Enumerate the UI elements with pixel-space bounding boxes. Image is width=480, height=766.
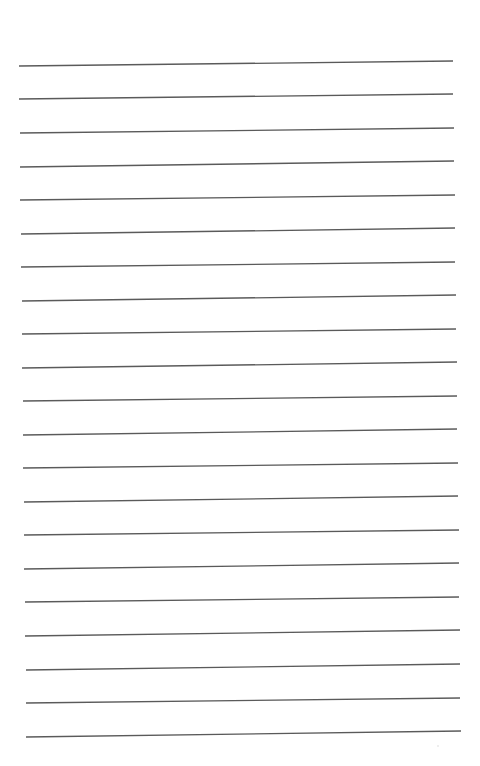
ruled-line-13 bbox=[23, 463, 458, 468]
ruled-line-16 bbox=[24, 563, 459, 569]
ruled-line-11 bbox=[23, 396, 457, 401]
ruled-line-14 bbox=[24, 496, 458, 502]
ruled-line-6 bbox=[21, 228, 455, 234]
ruled-line-19 bbox=[26, 664, 460, 670]
ruled-line-1 bbox=[19, 61, 453, 66]
ruled-page bbox=[0, 0, 480, 766]
ruled-line-21 bbox=[26, 731, 461, 737]
ruled-line-5 bbox=[20, 195, 455, 200]
ruled-line-17 bbox=[25, 597, 459, 602]
ruled-line-9 bbox=[22, 329, 456, 334]
ruled-line-7 bbox=[21, 262, 455, 267]
ruled-lines bbox=[0, 0, 480, 766]
ruled-line-8 bbox=[22, 295, 456, 301]
ruled-line-12 bbox=[23, 429, 457, 435]
paper-speck bbox=[437, 745, 439, 747]
ruled-line-15 bbox=[24, 530, 459, 535]
ruled-line-18 bbox=[25, 630, 460, 636]
ruled-line-4 bbox=[20, 161, 454, 167]
ruled-line-20 bbox=[26, 698, 460, 703]
ruled-line-3 bbox=[20, 128, 454, 133]
ruled-line-10 bbox=[22, 362, 457, 368]
ruled-line-2 bbox=[19, 94, 453, 99]
